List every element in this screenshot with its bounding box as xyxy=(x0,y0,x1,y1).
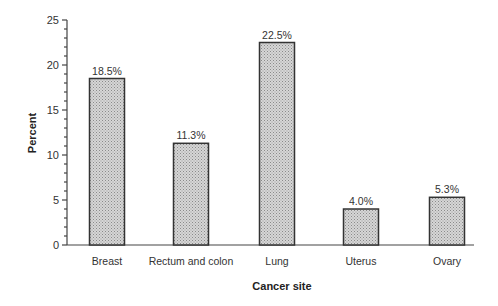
bar-value-label: 5.3% xyxy=(435,183,459,195)
bars: 18.5%Breast11.3%Rectum and colon22.5%Lun… xyxy=(90,29,465,268)
category-label: Lung xyxy=(265,255,289,267)
category-label: Ovary xyxy=(433,255,462,267)
bar xyxy=(260,43,295,246)
bar-group: 5.3%Ovary xyxy=(430,183,465,267)
bar-group: 11.3%Rectum and colon xyxy=(149,129,234,267)
bar xyxy=(430,197,465,245)
bar xyxy=(344,209,379,245)
bar-value-label: 4.0% xyxy=(349,195,373,207)
y-axis: 0510152025 xyxy=(47,14,67,251)
bar-value-label: 22.5% xyxy=(262,29,292,41)
bar-group: 22.5%Lung xyxy=(260,29,295,268)
y-axis-title: Percent xyxy=(26,112,38,153)
bar-group: 4.0%Uterus xyxy=(344,195,379,267)
bar-group: 18.5%Breast xyxy=(90,65,125,268)
y-tick-label: 15 xyxy=(47,104,59,116)
y-tick-label: 20 xyxy=(47,59,59,71)
y-tick-label: 0 xyxy=(53,239,59,251)
category-label: Uterus xyxy=(346,255,377,267)
category-label: Rectum and colon xyxy=(149,255,234,267)
bar xyxy=(90,79,125,246)
bar-chart: 0510152025 18.5%Breast11.3%Rectum and co… xyxy=(0,0,498,306)
bar xyxy=(174,143,209,245)
y-tick-label: 5 xyxy=(53,194,59,206)
bar-value-label: 11.3% xyxy=(177,129,206,141)
bar-value-label: 18.5% xyxy=(92,65,122,77)
x-axis-title: Cancer site xyxy=(252,280,311,292)
category-label: Breast xyxy=(92,255,122,267)
y-tick-label: 10 xyxy=(47,149,59,161)
y-tick-label: 25 xyxy=(47,14,59,26)
